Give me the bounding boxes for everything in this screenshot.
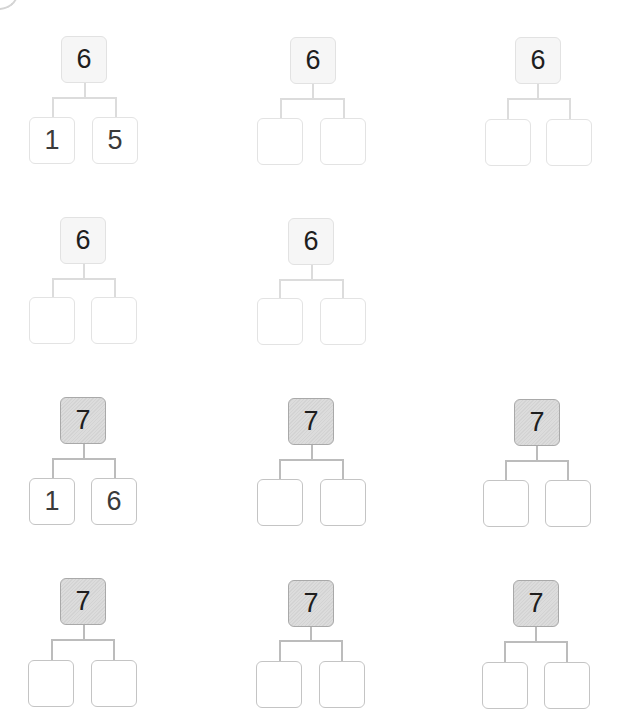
part-box-left[interactable] xyxy=(482,662,528,709)
part-box-right[interactable] xyxy=(544,662,590,709)
connector-line xyxy=(537,84,539,99)
whole-box: 7 xyxy=(60,397,106,444)
part-box-left[interactable] xyxy=(28,660,74,707)
connector-line xyxy=(569,98,571,119)
connector-line xyxy=(342,459,344,479)
part-value: 6 xyxy=(106,486,121,517)
connector-line xyxy=(535,627,537,642)
connector-line xyxy=(115,97,117,117)
part-box-left[interactable] xyxy=(257,298,303,345)
connector-line xyxy=(310,627,312,641)
connector-line xyxy=(83,444,85,459)
connector-line xyxy=(311,445,313,460)
whole-value: 7 xyxy=(75,405,90,436)
connector-line xyxy=(566,641,568,662)
connector-line xyxy=(52,278,54,297)
part-box-right[interactable] xyxy=(546,119,592,166)
part-box-left[interactable] xyxy=(257,118,303,165)
corner-arc-decoration xyxy=(0,0,18,10)
connector-line xyxy=(536,446,538,461)
part-box-right[interactable] xyxy=(320,298,366,345)
connector-line xyxy=(341,640,343,661)
part-box-left[interactable]: 1 xyxy=(29,117,75,164)
part-box-right[interactable] xyxy=(319,661,365,708)
connector-line xyxy=(84,83,86,98)
connector-line xyxy=(504,641,506,662)
connector-line xyxy=(52,278,115,280)
connector-line xyxy=(114,278,116,297)
connector-line xyxy=(279,459,343,461)
part-box-left[interactable] xyxy=(29,297,75,344)
connector-line xyxy=(507,98,509,119)
whole-box: 7 xyxy=(288,398,334,445)
connector-line xyxy=(51,639,114,641)
connector-line xyxy=(51,639,53,660)
whole-box: 7 xyxy=(288,580,334,627)
whole-box: 6 xyxy=(515,37,561,84)
connector-line xyxy=(52,458,54,478)
whole-box: 7 xyxy=(513,580,559,627)
whole-box: 6 xyxy=(288,218,334,265)
part-box-right[interactable] xyxy=(545,480,591,527)
part-value: 5 xyxy=(107,125,122,156)
part-box-right[interactable]: 5 xyxy=(92,117,138,164)
part-box-left[interactable] xyxy=(483,480,529,527)
connector-line xyxy=(114,458,116,478)
whole-value: 7 xyxy=(75,586,90,617)
whole-value: 6 xyxy=(75,225,90,256)
connector-line xyxy=(342,279,344,298)
connector-line xyxy=(343,98,345,118)
part-value: 1 xyxy=(44,486,59,517)
connector-line xyxy=(567,460,569,480)
connector-line xyxy=(311,265,313,280)
connector-line xyxy=(279,279,343,281)
connector-line xyxy=(280,98,282,118)
part-box-right[interactable] xyxy=(91,297,137,344)
connector-line xyxy=(279,640,281,661)
part-box-left[interactable] xyxy=(256,661,302,708)
connector-line xyxy=(83,625,85,640)
connector-line xyxy=(279,279,281,298)
connector-line xyxy=(83,264,85,279)
part-box-right[interactable] xyxy=(320,479,366,526)
part-box-left[interactable]: 1 xyxy=(29,478,75,525)
connector-line xyxy=(504,641,567,643)
whole-value: 6 xyxy=(76,44,91,75)
connector-line xyxy=(52,97,116,99)
part-box-right[interactable] xyxy=(320,118,366,165)
whole-box: 7 xyxy=(60,578,106,625)
whole-value: 7 xyxy=(303,406,318,437)
whole-value: 7 xyxy=(303,588,318,619)
connector-line xyxy=(507,98,570,100)
connector-line xyxy=(312,84,314,99)
connector-line xyxy=(279,459,281,479)
whole-box: 6 xyxy=(61,36,107,83)
connector-line xyxy=(113,639,115,660)
connector-line xyxy=(52,458,115,460)
connector-line xyxy=(505,460,568,462)
whole-box: 6 xyxy=(60,217,106,264)
whole-value: 6 xyxy=(303,226,318,257)
whole-box: 7 xyxy=(514,399,560,446)
whole-value: 7 xyxy=(528,588,543,619)
connector-line xyxy=(505,460,507,480)
whole-value: 6 xyxy=(305,45,320,76)
connector-line xyxy=(52,97,54,117)
whole-box: 6 xyxy=(290,37,336,84)
part-box-right[interactable]: 6 xyxy=(91,478,137,525)
connector-line xyxy=(280,98,344,100)
part-value: 1 xyxy=(44,125,59,156)
part-box-left[interactable] xyxy=(257,479,303,526)
connector-line xyxy=(279,640,342,642)
part-box-left[interactable] xyxy=(485,119,531,166)
part-box-right[interactable] xyxy=(91,660,137,707)
whole-value: 6 xyxy=(530,45,545,76)
whole-value: 7 xyxy=(529,407,544,438)
